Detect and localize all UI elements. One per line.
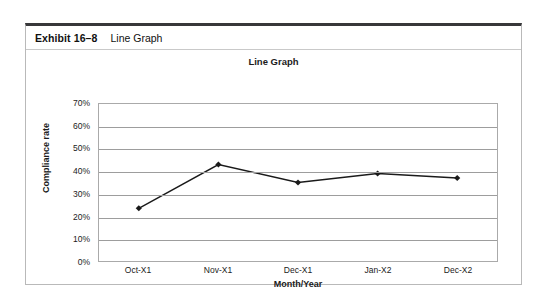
x-axis-tick: Jan-X2 [365, 265, 392, 275]
exhibit-title: Line Graph [110, 32, 162, 44]
y-axis-tick: 10% [73, 234, 90, 244]
y-axis-tick: 0% [78, 257, 90, 267]
data-point-marker [295, 179, 301, 185]
x-axis-title: Month/Year [98, 279, 498, 289]
gridline [99, 240, 497, 241]
data-point-marker [454, 175, 460, 181]
y-axis-title-label: Compliance rate [41, 123, 51, 193]
exhibit-container: Exhibit 16–8 Line Graph Line Graph Compl… [25, 23, 522, 285]
y-axis-tick: 40% [73, 166, 90, 176]
plot-area [98, 103, 498, 262]
exhibit-header: Exhibit 16–8 Line Graph [26, 26, 521, 50]
chart-area: Line Graph Compliance rate 0%10%20%30%40… [26, 50, 521, 284]
data-point-marker [215, 161, 221, 167]
x-axis-tick: Oct-X1 [125, 265, 151, 275]
chart-title: Line Graph [26, 56, 521, 67]
gridline [99, 127, 497, 128]
x-axis-tick-labels: Oct-X1Nov-X1Dec-X1Jan-X2Dec-X2 [98, 265, 498, 279]
y-axis-title: Compliance rate [39, 78, 53, 238]
gridline [99, 172, 497, 173]
page-root: Exhibit 16–8 Line Graph Line Graph Compl… [0, 0, 549, 308]
gridline [99, 149, 497, 150]
y-axis-tick: 70% [73, 98, 90, 108]
y-axis-tick: 30% [73, 189, 90, 199]
data-point-marker [136, 205, 142, 211]
y-axis-tick: 60% [73, 121, 90, 131]
y-axis-tick: 50% [73, 143, 90, 153]
exhibit-number: Exhibit 16–8 [35, 32, 97, 44]
gridline [99, 218, 497, 219]
y-axis-tick-labels: 0%10%20%30%40%50%60%70% [54, 103, 94, 262]
y-axis-tick: 20% [73, 212, 90, 222]
x-axis-tick: Dec-X2 [444, 265, 472, 275]
x-axis-tick: Nov-X1 [204, 265, 232, 275]
series-line [139, 165, 457, 209]
gridline [99, 195, 497, 196]
x-axis-tick: Dec-X1 [284, 265, 312, 275]
